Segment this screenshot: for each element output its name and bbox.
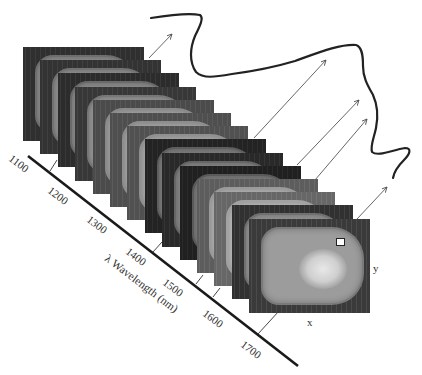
arrow-icon — [357, 187, 387, 219]
x-axis-label: x — [307, 316, 313, 328]
arrow-icon — [149, 34, 172, 58]
image-slice — [249, 219, 370, 313]
pixel-roi-box — [336, 238, 345, 246]
arrow-icon — [297, 100, 359, 165]
arrow-icon — [254, 60, 326, 138]
hyperspectral-cube-figure: 1100 1200 1300 1400 1500 1600 1700 λ Wav… — [0, 0, 422, 375]
y-axis-label: y — [373, 262, 379, 274]
arrow-icon — [315, 119, 367, 180]
bright-region — [299, 249, 347, 289]
